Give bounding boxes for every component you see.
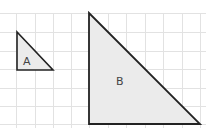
- triangle-b-label: B: [116, 75, 124, 88]
- grid-diagram: A B: [0, 0, 206, 128]
- triangle-b: [89, 13, 200, 124]
- triangle-a-label: A: [23, 55, 31, 68]
